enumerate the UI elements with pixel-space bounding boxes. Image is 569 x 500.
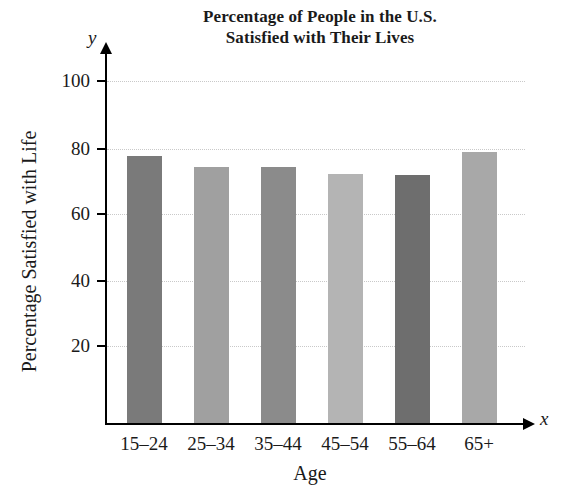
x-tick-label-15-24: 15–24 <box>108 434 180 454</box>
x-axis-title: Age <box>180 462 440 485</box>
x-axis-variable-label: x <box>540 408 548 430</box>
chart-figure: Percentage of People in the U.S. Satisfi… <box>0 0 569 500</box>
x-axis-line <box>105 423 525 425</box>
y-tick-label-60: 60 <box>38 204 90 223</box>
y-tick-100 <box>97 80 107 82</box>
bar-45-54 <box>328 174 363 424</box>
plot-area: y x 100 80 60 40 20 15–24 25–34 35–44 45… <box>0 0 569 500</box>
y-tick-80 <box>97 148 107 150</box>
gridline-80 <box>107 149 525 151</box>
gridline-100 <box>107 81 525 83</box>
bar-35-44 <box>261 167 296 424</box>
bar-15-24 <box>127 156 162 424</box>
y-tick-40 <box>97 280 107 282</box>
y-axis-arrow-icon <box>100 42 112 54</box>
y-axis-variable-label: y <box>88 27 96 49</box>
y-axis-title: Percentage Satisfied with Life <box>18 102 41 402</box>
y-tick-label-40: 40 <box>38 271 90 290</box>
x-tick-label-25-34: 25–34 <box>175 434 247 454</box>
y-tick-label-80: 80 <box>38 139 90 158</box>
x-tick-label-35-44: 35–44 <box>242 434 314 454</box>
x-axis-arrow-icon <box>523 418 535 430</box>
y-tick-label-20: 20 <box>38 336 90 355</box>
bar-25-34 <box>194 167 229 424</box>
x-tick-label-45-54: 45–54 <box>309 434 381 454</box>
bar-55-64 <box>395 175 430 424</box>
bar-65-plus <box>462 152 497 424</box>
y-tick-60 <box>97 213 107 215</box>
y-tick-label-100: 100 <box>38 71 90 90</box>
y-tick-20 <box>97 345 107 347</box>
y-axis-line <box>105 52 107 425</box>
x-tick-label-65-plus: 65+ <box>443 434 515 454</box>
x-tick-label-55-64: 55–64 <box>376 434 448 454</box>
